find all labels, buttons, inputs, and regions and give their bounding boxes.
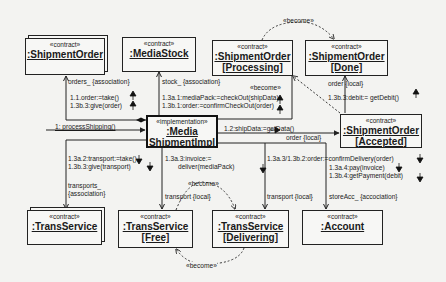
transports-association-label: transports_ bbox=[68, 182, 101, 190]
transport-local-label: transport {local} bbox=[267, 193, 313, 201]
message-label: 1.3a.4:pay(invoice) bbox=[329, 164, 385, 172]
stereotype-label: «contract» bbox=[341, 117, 421, 125]
transports-association-label: {association} bbox=[68, 190, 105, 198]
object-name: :TransService bbox=[119, 221, 192, 232]
message-label: 1.2:shipData:=getData() bbox=[224, 125, 294, 133]
message-label: deliver(mediaPack) bbox=[178, 163, 234, 171]
shipment-done-box[interactable]: «contract» :ShipmentOrder [Done] bbox=[305, 40, 388, 76]
message-label: 1.3b.1:order:=confirmCheckOut(order) bbox=[162, 102, 274, 110]
shipment-accepted-box[interactable]: «contract» :ShipmentOrder [Accepted] bbox=[340, 114, 422, 148]
message-label: 1.3a.3:invoice:= bbox=[165, 155, 211, 163]
transports-association-line bbox=[66, 140, 146, 209]
trans-delivering-box[interactable]: «contract» :TransService [Delivering] bbox=[212, 210, 289, 248]
stereotype-label: «contract» bbox=[119, 213, 192, 221]
object-name: :ShipmentOrder bbox=[306, 51, 387, 62]
object-name: :ShipmentOrder bbox=[341, 125, 421, 136]
object-state: [Accepted] bbox=[341, 136, 421, 147]
stereotype-label: «contract» bbox=[213, 43, 292, 51]
media-shipment-impl-box[interactable]: «implementation» :Media ShipmentImpl bbox=[146, 115, 218, 148]
become-label: «become» bbox=[283, 17, 314, 25]
composition-diamond-icon bbox=[136, 118, 146, 123]
stereotype-label: «implementation» bbox=[148, 118, 216, 126]
object-state: [Delivering] bbox=[213, 232, 288, 243]
stereotype-label: «contract» bbox=[28, 213, 101, 221]
stereotype-label: «contract» bbox=[303, 213, 382, 221]
message-label: 1.1.order:=take() bbox=[70, 94, 119, 102]
become-label: «become» bbox=[186, 262, 217, 270]
shipment-processing-box[interactable]: «contract» :ShipmentOrder [Processing] bbox=[212, 40, 293, 76]
object-name-line1: :Media bbox=[148, 126, 216, 137]
account-box[interactable]: «contract» :Account bbox=[302, 210, 383, 245]
stereotype-label: «contract» bbox=[123, 40, 195, 48]
become-label: «become» bbox=[250, 84, 281, 92]
collaboration-diagram: «contract» :ShipmentOrder «contract» :Me… bbox=[0, 0, 446, 282]
object-name-line2: ShipmentImpl bbox=[148, 137, 216, 148]
object-name: :TransService bbox=[213, 221, 288, 232]
trans-service-box[interactable]: «contract» :TransService bbox=[27, 210, 102, 245]
stereotype-label: «contract» bbox=[213, 213, 288, 221]
message-label: 1.3b.3:give(order) bbox=[70, 102, 122, 110]
message-label: 1.3a.2:transport:=take() bbox=[68, 155, 137, 163]
object-name: :MediaStock bbox=[123, 48, 195, 59]
media-stock-box[interactable]: «contract» :MediaStock bbox=[122, 37, 196, 72]
order-local-label: order {local} bbox=[286, 134, 321, 142]
order-local-label: order {local} bbox=[328, 80, 363, 88]
stock-association-label: stock_ {association} bbox=[162, 78, 220, 86]
object-name: :Account bbox=[303, 221, 382, 232]
stereotype-label: «contract» bbox=[26, 41, 104, 49]
become-label: «become» bbox=[188, 180, 219, 188]
object-name: :TransService bbox=[28, 221, 101, 232]
store-acc-label: storeAcc_ {accociation} bbox=[329, 193, 398, 201]
message-label: 1.3b.3:give(transport) bbox=[68, 163, 131, 171]
message-label: 1: processShipping() bbox=[55, 123, 115, 131]
message-label: 1.3b.4:getPayment(debit) bbox=[329, 172, 403, 180]
object-state: [Processing] bbox=[213, 62, 292, 73]
stereotype-label: «contract» bbox=[306, 43, 387, 51]
transport-local-label: transport {local} bbox=[165, 193, 211, 201]
trans-free-box[interactable]: «contract» :TransService [Free] bbox=[118, 210, 193, 248]
message-label: 1.3a.1:mediaPack:=checkOut(shipData) bbox=[162, 94, 279, 102]
shipment-order-box[interactable]: «contract» :ShipmentOrder bbox=[25, 38, 105, 75]
message-label: 1.3a.3/1.3b.2:order:=confirmDelivery(ord… bbox=[267, 155, 394, 163]
object-state: [Free] bbox=[119, 232, 192, 243]
orders-association-label: orders_ {association} bbox=[68, 78, 130, 86]
object-name: :ShipmentOrder bbox=[213, 51, 292, 62]
object-state: [Done] bbox=[306, 62, 387, 73]
stock-association-line bbox=[157, 72, 162, 115]
object-name: :ShipmentOrder bbox=[26, 49, 104, 60]
message-label: 1.3b.3:debit:= getDebit() bbox=[328, 94, 399, 102]
